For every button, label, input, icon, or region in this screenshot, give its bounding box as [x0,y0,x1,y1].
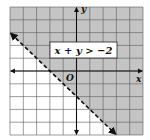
x-axis-label: x [135,74,142,84]
inequality-chart: x + y > −2 y x O [0,0,150,140]
origin-label: O [66,73,74,83]
inequality-label: x + y > −2 [54,45,113,56]
y-axis-label: y [80,4,87,14]
